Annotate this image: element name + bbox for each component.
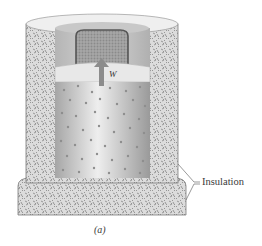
work-label: W: [109, 69, 117, 79]
insulation-label: Insulation: [202, 176, 244, 187]
gas-cylinder: [55, 82, 150, 178]
figure-caption: (a): [94, 224, 106, 235]
thermodynamics-diagram: [0, 0, 262, 246]
insulated-base: [18, 178, 186, 215]
